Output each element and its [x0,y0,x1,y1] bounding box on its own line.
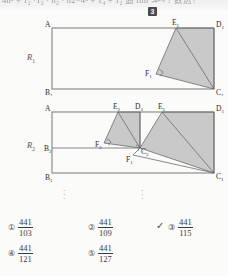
vertex-label-c1-2: C1 [216,172,224,182]
choice-2-numerator: 441 [98,218,113,227]
choice-1-fraction: 441 103 [18,218,33,238]
choice-2[interactable]: ② 441 109 [88,218,113,238]
vertex-label-a-2: A [45,104,51,113]
truncated-text-line: 4n² + 1₂ ·1₂ · n₂ · n2−4ⁿ + 1₄ + 1₂ 追 li… [0,0,228,11]
choice-2-fraction: 441 109 [98,218,113,238]
vertex-label-f2: F2 [95,140,102,150]
shaded-region-r2-small [104,112,140,148]
choice-3-denominator: 115 [178,229,192,238]
choice-4-marker: ④ [8,249,15,258]
vertex-label-e1-2: E1 [158,102,166,112]
exam-problem-page: 4n² + 1₂ ·1₂ · n₂ · n2−4ⁿ + 1₄ + 1₂ 追 li… [0,0,228,276]
figure-r2: A D1 B1 C1 B2 E1 D2 E2 F2 F1 C2 R2 [0,100,228,182]
answer-choices: ① 441 103 ② 441 109 ✓ ③ 441 115 [0,212,228,276]
choice-4-denominator: 121 [18,255,33,264]
shaded-region-r1 [156,28,214,89]
vertex-label-d1: D1 [216,20,224,30]
choice-4[interactable]: ④ 441 121 [8,244,33,264]
region-label-r1: R1 [27,52,35,64]
vertex-label-a: A [45,20,51,29]
choice-2-marker: ② [88,223,95,232]
shaded-region-r2-large [140,112,214,173]
choice-5[interactable]: ⑤ 441 127 [88,244,113,264]
choice-5-numerator: 441 [98,244,113,253]
choice-5-denominator: 127 [98,255,113,264]
vertex-label-f1: F1 [145,69,152,79]
vertex-label-d2: D2 [135,102,143,112]
vertex-label-d1-2: D1 [216,104,224,114]
vertex-label-b1-2: B1 [45,173,53,182]
choice-1-marker: ① [8,223,15,232]
region-label-r2: R2 [27,140,35,152]
vertex-label-e1: E1 [172,18,180,28]
choice-3-fraction: 441 115 [178,218,193,238]
problem-number-badge: 3 [148,7,157,16]
choice-1[interactable]: ① 441 103 [8,218,33,238]
vertex-label-f1-2: F1 [126,155,133,165]
choice-3-numerator: 441 [178,218,193,227]
figure-r1: A D1 B1 C1 E1 F1 R1 [0,16,228,96]
truncated-text: 4n² + 1₂ ·1₂ · n₂ · n2−4ⁿ + 1₄ + 1₂ 追 li… [2,0,202,5]
vertex-label-e2: E2 [113,102,121,112]
choice-4-numerator: 441 [18,244,33,253]
choice-1-numerator: 441 [18,218,33,227]
choice-1-denominator: 103 [18,229,33,238]
choice-3[interactable]: ③ 441 115 [168,218,193,238]
vertical-ellipsis-right: ... [138,186,146,198]
choice-3-marker: ③ [168,223,175,232]
vertex-label-b2: B2 [44,144,52,154]
vertex-label-c1: C1 [216,88,224,96]
choice-2-denominator: 109 [98,229,113,238]
selected-answer-checkmark: ✓ [156,220,164,231]
choice-5-marker: ⑤ [88,249,95,258]
vertical-ellipsis-left: ... [60,186,68,198]
choice-4-fraction: 441 121 [18,244,33,264]
choice-5-fraction: 441 127 [98,244,113,264]
